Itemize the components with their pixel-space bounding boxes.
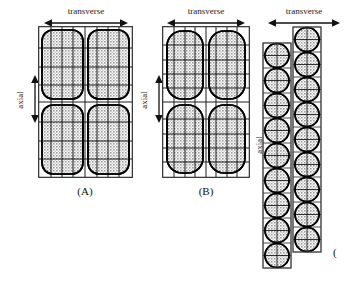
panel-a: transverse axial bbox=[0, 0, 150, 210]
panel-a-caption: (A) bbox=[45, 185, 125, 197]
figure-canvas: transverse axial bbox=[0, 0, 348, 286]
panel-b-axial-label: axial bbox=[139, 82, 149, 118]
panel-b-caption: (B) bbox=[166, 185, 246, 197]
panel-b-transverse-label: transverse bbox=[166, 6, 246, 16]
panel-c: transverse axial bbox=[255, 0, 348, 286]
panel-c-transverse-label: transverse bbox=[267, 6, 341, 16]
panel-b: transverse axial bbox=[140, 0, 270, 210]
panel-a-transverse-label: transverse bbox=[46, 6, 126, 16]
panel-a-axial-label: axial bbox=[15, 82, 25, 118]
panel-b-mesh-diagram bbox=[162, 26, 250, 178]
panel-a-mesh-diagram bbox=[38, 26, 133, 178]
panel-c-caption: ( bbox=[333, 246, 348, 258]
panel-c-circle-array bbox=[262, 24, 342, 274]
